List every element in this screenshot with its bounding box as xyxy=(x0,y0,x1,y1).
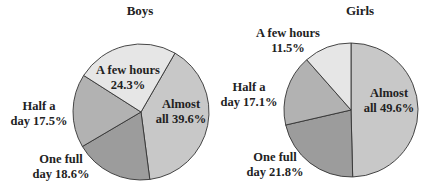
girls-label-almost-all: Almost all 49.6% xyxy=(358,86,420,116)
girls-label-one-full-day: One full day 21.8% xyxy=(242,150,308,180)
girls-label-a-few-hours: A few hours 11.5% xyxy=(250,26,326,56)
girls-chart: Girls Almost all 49.6% One full day 21.8… xyxy=(0,0,433,191)
girls-label-half-a-day: Half a day 17.1% xyxy=(216,80,282,110)
